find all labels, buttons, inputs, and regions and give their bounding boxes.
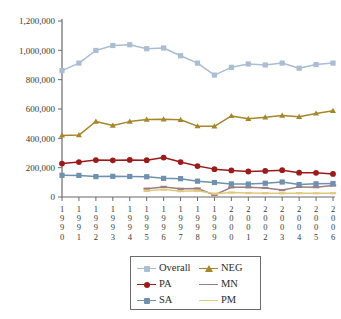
data-point [297,66,302,71]
data-point [177,188,183,190]
data-point [245,169,251,175]
data-point [144,157,150,163]
data-point [93,48,98,53]
data-point [330,60,335,65]
legend-swatch-neg-icon [199,263,218,273]
data-point [262,192,268,194]
x-tick-label: 1996 [162,204,166,242]
x-tick-label: 1993 [111,204,115,242]
x-tick-label: 2006 [331,204,335,242]
data-point [263,62,268,67]
x-tick-label: 1991 [77,204,81,242]
x-tick-label: 2003 [280,204,284,242]
data-point [110,43,115,48]
line-chart: 0200,000400,000600,000800,0001,000,0001,… [0,0,341,319]
data-point [279,189,285,191]
svg-text:3: 3 [280,232,284,242]
y-tick-label: 600,000 [26,104,56,114]
data-point [262,168,268,174]
data-point [330,181,335,186]
data-point [330,171,336,177]
data-point [93,118,99,123]
x-tick-label: 1997 [178,204,182,242]
x-tick-label: 2005 [314,204,318,242]
series-pm [143,188,336,194]
series-line [62,45,333,75]
data-point [76,173,81,178]
legend-item-mn: MN [199,276,261,292]
svg-text:8: 8 [195,232,199,242]
data-point [59,161,65,167]
legend-item-neg: NEG [199,260,261,276]
x-tick-label: 1998 [195,204,199,242]
legend-label: MN [221,279,238,290]
data-point [212,166,218,172]
data-point [263,181,268,186]
data-point [110,174,115,179]
svg-text:0: 0 [60,232,64,242]
data-point [143,190,149,192]
data-point [313,186,319,188]
legend-swatch-pm-icon [199,295,218,305]
legend-label: Overall [159,263,191,274]
x-tick-label: 2001 [246,204,250,242]
svg-text:2: 2 [94,232,98,242]
series-line [147,190,333,194]
series-sa [59,173,335,187]
data-point [93,157,99,163]
data-point [280,60,285,65]
data-point [177,190,183,192]
svg-text:2: 2 [263,232,267,242]
data-point [127,174,132,179]
svg-text:4: 4 [297,232,302,242]
data-point [59,68,64,73]
x-tick-label: 1999 [212,204,216,242]
legend-swatch-pa-icon [137,279,156,289]
data-point [296,192,302,194]
data-point [313,62,318,67]
y-tick-label: 1,000,000 [19,46,56,56]
data-point [178,53,183,58]
data-point [195,179,200,184]
y-tick-label: 1,200,000 [19,16,56,26]
svg-text:1: 1 [246,232,250,242]
data-point [143,188,149,190]
y-tick-label: 200,000 [26,163,56,173]
legend-label: PA [159,279,171,290]
svg-text:1: 1 [77,232,81,242]
data-point [279,192,285,194]
data-point [110,157,116,163]
legend-label: PM [221,295,236,306]
data-point [161,176,166,181]
data-point [178,159,184,165]
data-point [160,186,166,188]
data-point [330,192,336,194]
legend-label: SA [159,295,172,306]
x-tick-label: 2002 [263,204,267,242]
series-line [62,111,333,136]
data-point [228,192,234,194]
data-point [160,188,166,190]
data-point [313,181,318,186]
data-point [161,155,167,161]
data-point [229,181,234,186]
data-point [228,168,234,174]
svg-text:9: 9 [212,232,216,242]
data-point [76,159,82,165]
data-point [296,170,302,176]
data-point [211,193,217,195]
data-point [297,182,302,187]
data-point [280,179,285,184]
x-tick-label: 2000 [229,204,233,242]
data-point [262,187,268,189]
series-neg [59,108,336,138]
series-overall [59,42,335,78]
legend-item-pm: PM [199,292,261,308]
data-point [212,73,217,78]
data-point [195,60,200,65]
svg-text:5: 5 [314,232,318,242]
y-tick-label: 0 [51,192,56,202]
svg-text:0: 0 [229,232,233,242]
data-point [194,190,200,192]
x-tick-label: 1990 [60,204,64,242]
